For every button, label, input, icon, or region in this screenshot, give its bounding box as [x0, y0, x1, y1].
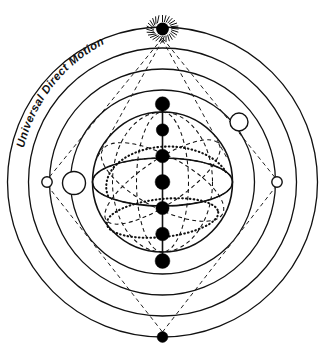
planet-dot-7	[155, 254, 170, 269]
planet-dot-2	[156, 124, 168, 136]
marker-upper-right	[230, 113, 248, 131]
planet-dot-4	[155, 175, 170, 190]
polar-axis-group	[155, 97, 170, 269]
ray-left-marker-to-bottom	[47, 185, 163, 332]
sun-core	[156, 23, 169, 36]
planet-dot-5	[156, 201, 169, 214]
planet-dot-3	[156, 149, 170, 163]
marker-right-outer	[272, 177, 282, 187]
arc-label-textpath: Universal Direct Motion	[14, 35, 106, 149]
cosmology-canvas: Universal Direct Motion	[0, 0, 325, 359]
ray-right-marker-to-bottom	[163, 185, 278, 332]
cosmology-diagram: Universal Direct Motion	[0, 0, 325, 359]
planet-dot-1	[155, 97, 169, 111]
marker-left-outer	[42, 177, 52, 187]
planet-dot-6	[156, 227, 170, 241]
universal-direct-motion-label: Universal Direct Motion	[14, 35, 106, 149]
bottom-node	[157, 332, 168, 343]
marker-left-large	[63, 172, 86, 195]
